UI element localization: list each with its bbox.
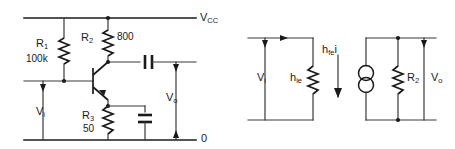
r3-value-label: 50 <box>83 124 94 134</box>
circuit-figure: VCC R1 100k R2 800 R3 50 Vi Vo 0 Vi hie … <box>0 0 455 149</box>
eq-r2-resistor-symbol <box>393 66 403 94</box>
eq-controlled-current-arrow-head <box>334 88 342 98</box>
eq-vi-label: Vi <box>257 72 266 83</box>
vo-arrow-head-top <box>173 64 179 72</box>
ground-rail-label: 0 <box>201 133 207 144</box>
r2-resistor-symbol <box>103 30 113 56</box>
r1-value-label: 100k <box>26 54 48 64</box>
r1-ref-label: R1 <box>36 38 48 49</box>
hie-resistor-symbol <box>308 66 318 94</box>
r3-ref-label: R3 <box>82 110 94 121</box>
eq-vo-arrow-head <box>421 40 427 48</box>
r2-ref-label: R2 <box>81 32 93 43</box>
eq-r2-bottom-node-dot <box>396 118 400 122</box>
r2-vcc-node-dot <box>106 16 110 20</box>
schematic-drawing <box>0 0 455 149</box>
eq-input-current-arrow <box>280 35 288 41</box>
base-node-dot <box>62 79 66 83</box>
vo-arrow-head-bottom <box>173 130 179 138</box>
hie-label: hie <box>290 72 302 83</box>
r1-resistor-symbol <box>59 38 69 64</box>
eq-r2-label: R2 <box>407 72 419 83</box>
r3-resistor-symbol <box>103 106 113 134</box>
left-circuit-group <box>24 16 196 140</box>
transistor-collector-lead <box>93 62 108 75</box>
eq-vo-label: Vo <box>431 72 443 83</box>
vo-label: Vo <box>166 92 178 103</box>
r2-value-label: 800 <box>117 32 134 42</box>
vi-arrow-head <box>40 84 46 92</box>
controlled-source-label: hfei <box>322 44 337 55</box>
transistor-emitter-lead <box>93 87 108 100</box>
eq-vi-arrow-head <box>262 40 268 48</box>
vi-label: Vi <box>36 106 45 117</box>
eq-r2-top-node-dot <box>396 36 400 40</box>
supply-rail-label: VCC <box>200 12 218 23</box>
